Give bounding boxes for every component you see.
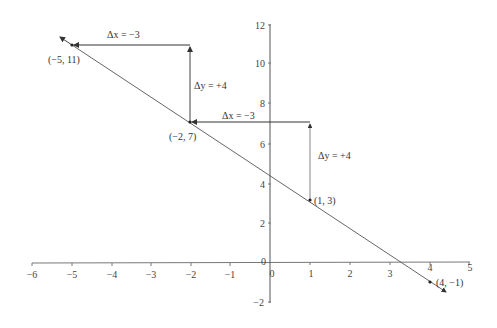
svg-text:1: 1 — [309, 268, 314, 279]
x-axis — [32, 262, 470, 263]
svg-text:3: 3 — [388, 268, 393, 279]
svg-text:4: 4 — [260, 179, 265, 190]
svg-text:2: 2 — [348, 268, 353, 279]
svg-text:10: 10 — [255, 58, 265, 69]
svg-text:−2: −2 — [253, 297, 264, 308]
delta-y-label: Δy = +4 — [194, 80, 227, 91]
svg-text:0: 0 — [270, 268, 275, 279]
point-marker — [428, 280, 431, 283]
svg-text:0: 0 — [261, 256, 266, 267]
svg-text:2: 2 — [260, 218, 265, 229]
y-tick-labels: −2 0 2 4 6 8 10 12 — [253, 20, 266, 308]
svg-text:−4: −4 — [107, 269, 118, 280]
plot-area: −6 −5 −4 −3 −2 −1 0 1 2 3 4 5 −2 0 2 4 6… — [0, 0, 497, 328]
point-label: (4, −1) — [436, 277, 463, 289]
svg-text:5: 5 — [468, 262, 473, 273]
svg-text:4: 4 — [428, 262, 433, 273]
point-marker — [188, 120, 191, 123]
point-label: (1, 3) — [314, 195, 336, 207]
svg-text:−6: −6 — [27, 269, 38, 280]
svg-text:8: 8 — [260, 98, 265, 109]
delta-y-label: Δy = +4 — [318, 150, 351, 161]
svg-text:12: 12 — [255, 20, 265, 31]
main-line-body — [72, 45, 446, 292]
chart: −6 −5 −4 −3 −2 −1 0 1 2 3 4 5 −2 0 2 4 6… — [0, 0, 497, 328]
point-label: (−2, 7) — [169, 131, 196, 143]
main-line — [60, 37, 72, 45]
svg-text:−1: −1 — [225, 269, 236, 280]
delta-x-label: Δx = −3 — [107, 29, 140, 40]
delta-x-label: Δx = −3 — [222, 110, 255, 121]
svg-text:−5: −5 — [67, 269, 78, 280]
svg-text:−2: −2 — [186, 269, 197, 280]
svg-text:6: 6 — [260, 139, 265, 150]
svg-text:−3: −3 — [146, 269, 157, 280]
point-marker — [308, 198, 311, 201]
x-tick-labels: −6 −5 −4 −3 −2 −1 0 1 2 3 4 5 — [27, 262, 473, 280]
point-label: (−5, 11) — [48, 54, 80, 66]
point-marker — [70, 43, 73, 46]
